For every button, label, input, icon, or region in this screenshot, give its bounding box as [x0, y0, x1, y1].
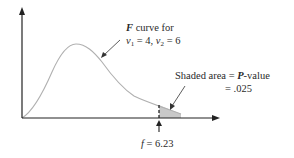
f-value-text: = 6.23 [144, 138, 174, 149]
curve-label-text: curve for [133, 22, 174, 33]
curve-label-var: F [126, 22, 133, 33]
f-value-label: f = 6.23 [141, 138, 173, 150]
f-density-curve [22, 44, 181, 118]
nu2-value: = 6 [164, 35, 180, 46]
shaded-pointer-line [172, 86, 185, 106]
shaded-label-prefix: Shaded area = [175, 70, 237, 81]
y-axis-arrow-icon [19, 7, 25, 15]
curve-label-line1: F curve for [126, 22, 174, 34]
f-pointer-arrow-icon [156, 120, 162, 126]
shaded-label-line2: = .025 [225, 83, 252, 95]
x-axis-arrow-icon [212, 115, 220, 121]
shaded-pointer-arrow-icon [170, 103, 175, 110]
nu1-value: = 4, [134, 35, 156, 46]
shaded-label-line1: Shaded area = P-value [175, 70, 270, 82]
shaded-label-suffix: -value [244, 70, 270, 81]
curve-label-line2: v1 = 4, v2 = 6 [126, 35, 180, 47]
curve-pointer-line [104, 40, 120, 55]
